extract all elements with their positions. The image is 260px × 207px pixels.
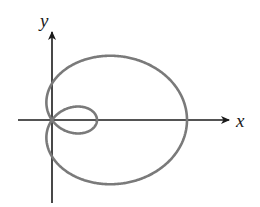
y-axis-label: y (38, 10, 49, 31)
polar-graph: y x (0, 0, 260, 207)
x-axis-label: x (235, 110, 245, 131)
